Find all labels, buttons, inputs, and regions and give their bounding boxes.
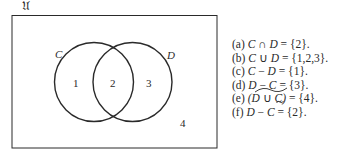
answer-term: D	[269, 38, 277, 50]
answer-operator: −	[255, 65, 267, 77]
answer-tag: (e)	[232, 92, 245, 104]
complement-tilde-icon	[254, 86, 288, 94]
answer-tag: (d)	[232, 79, 245, 91]
venn-diagram: 𝔘 C D 1 2 3 4	[0, 0, 225, 156]
set-d-circle	[93, 43, 172, 122]
region-3-label: 3	[146, 77, 152, 89]
answer-result: = {2}.	[278, 38, 310, 50]
answer-result: = {4}.	[286, 92, 318, 104]
answer-list: (a) C ∩ D = {2}. (b) C ∪ D = {1,2,3}. (c…	[232, 38, 328, 120]
region-1-label: 1	[73, 77, 79, 89]
answer-b: (b) C ∪ D = {1,2,3}.	[232, 52, 328, 66]
answer-result: = {2}.	[275, 106, 307, 118]
answer-a: (a) C ∩ D = {2}.	[232, 38, 328, 52]
universe-label: 𝔘	[22, 0, 30, 13]
set-d-label: D	[166, 49, 175, 61]
answer-result: = {1,2,3}.	[279, 52, 328, 64]
answer-tag: (a)	[232, 38, 245, 50]
answer-tag: (b)	[232, 52, 245, 64]
answer-operator: ∪	[256, 52, 271, 64]
answer-tag: (f)	[232, 106, 244, 118]
answer-operator: −	[255, 106, 267, 118]
answer-term: D	[271, 52, 279, 64]
set-c-label: C	[55, 48, 63, 60]
answer-tag: (c)	[232, 65, 245, 77]
answer-term: D	[246, 106, 254, 118]
answer-term: C	[248, 52, 256, 64]
region-2-label: 2	[110, 77, 116, 89]
set-c-circle	[55, 43, 134, 122]
complement-tilde-icon	[276, 99, 284, 105]
answer-operator: ∩	[255, 38, 269, 50]
region-4-label: 4	[180, 117, 186, 129]
answer-f: (f) D − C = {2}.	[232, 106, 328, 120]
answer-term: D	[268, 65, 276, 77]
answer-c: (c) C − D = {1}.	[232, 65, 328, 79]
answer-term: C	[267, 106, 275, 118]
answer-result: = {1}.	[276, 65, 308, 77]
